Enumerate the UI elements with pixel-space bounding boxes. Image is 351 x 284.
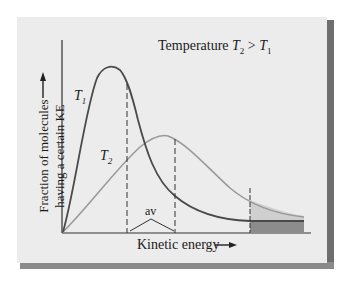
t1-label: T1 [74, 88, 86, 106]
av-bracket [130, 219, 174, 231]
t2-label: T2 [100, 148, 112, 166]
x-arrow-icon [229, 242, 237, 248]
av-label: av [145, 204, 156, 219]
t1-tail-shade [250, 222, 304, 232]
x-axis-label: Kinetic energy [137, 237, 220, 253]
t2-tail-shade [250, 200, 304, 222]
y-axis-label: Fraction of moleculeshaving a certain KE [36, 66, 68, 246]
diagram-title: Temperature T2 > T1 [158, 38, 272, 56]
